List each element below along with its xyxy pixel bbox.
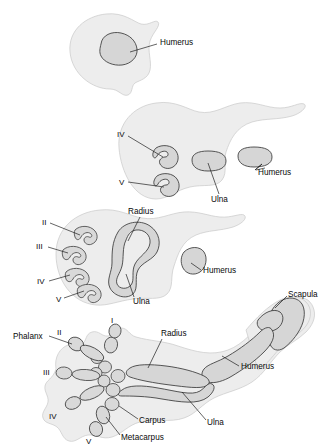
stage-2-ulna-label: Ulna	[211, 195, 228, 204]
stage-1-group: Humerus	[70, 14, 193, 96]
stage-4-group: I II III IV V Scapula Phalanx Radius Hum…	[13, 290, 318, 446]
stage-4-humerus-label: Humerus	[241, 362, 274, 371]
stage-4-carpal-1	[111, 370, 125, 383]
limb-development-diagram: Humerus IV V Humerus Ulna II III IV	[0, 0, 334, 448]
stage-2-digit-iv-numeral: IV	[117, 130, 125, 139]
stage-3-humerus-label: Humerus	[203, 266, 236, 275]
stage-2-humerus-condensation	[238, 147, 272, 167]
stage-4-digit-iv-numeral: IV	[49, 412, 57, 421]
stage-4-digit-i-numeral: I	[111, 316, 113, 325]
stage-4-scapula-label: Scapula	[288, 290, 318, 299]
stage-2-ulna-condensation	[192, 151, 226, 171]
stage-3-digit-iii-numeral: III	[36, 242, 43, 251]
stage-3-group: II III IV V Radius Humerus Ulna	[36, 207, 245, 306]
stage-3-digit-ii-numeral: II	[42, 218, 46, 227]
stage-1-humerus-label: Humerus	[160, 38, 193, 47]
stage-3-digit-iv-numeral: IV	[37, 277, 45, 286]
stage-4-phalanx-label: Phalanx	[13, 332, 43, 341]
stage-4-radius-label: Radius	[161, 329, 187, 338]
stage-3-ulna-label: Ulna	[133, 297, 150, 306]
stage-3-radius-label: Radius	[128, 207, 154, 216]
stage-4-phalanx-leader	[49, 336, 72, 344]
stage-4-carpus-label: Carpus	[139, 416, 165, 425]
stage-2-digit-v-numeral: V	[119, 178, 125, 187]
limb-development-figure: Humerus IV V Humerus Ulna II III IV	[0, 0, 334, 448]
stage-2-group: IV V Humerus Ulna	[117, 102, 305, 204]
stage-4-metacarpus-label: Metacarpus	[121, 433, 164, 442]
stage-3-digit-v-numeral: V	[56, 295, 62, 304]
stage-4-digit-ii-numeral: II	[57, 328, 61, 337]
stage-4-ulna-label: Ulna	[207, 418, 224, 427]
stage-4-digit-iii-numeral: III	[43, 368, 50, 377]
stage-2-humerus-label: Humerus	[258, 168, 291, 177]
stage-4-digit-v-numeral: V	[86, 437, 92, 446]
